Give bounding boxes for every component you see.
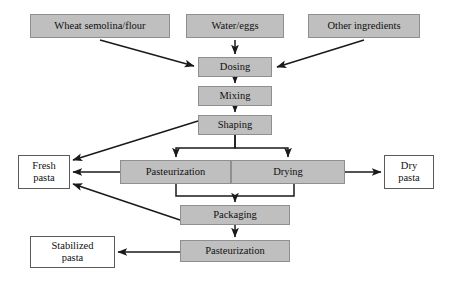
node-pasteurization-stabilized: Pasteurization (180, 240, 290, 262)
node-mixing: Mixing (198, 86, 272, 106)
edge-merge-to-packaging (176, 184, 294, 196)
node-stabilized-pasta: Stabilized pasta (30, 236, 115, 268)
node-label: Pasteurization (146, 166, 205, 178)
flowchart-diagram: Wheat semolina/flour Water/eggs Other in… (0, 0, 450, 281)
node-label: Wheat semolina/flour (54, 20, 145, 32)
node-wheat-semolina-flour: Wheat semolina/flour (30, 14, 170, 38)
edge-shaping-to-drying (235, 135, 288, 157)
node-label: Fresh pasta (32, 160, 55, 184)
node-label: Dosing (220, 61, 250, 73)
node-label: Drying (273, 166, 303, 178)
node-label: Water/eggs (212, 20, 259, 32)
node-pasteurization-fresh: Pasteurization (120, 160, 231, 184)
node-label: Packaging (213, 209, 257, 221)
node-label: Dry pasta (398, 160, 420, 184)
node-label: Mixing (220, 90, 251, 102)
node-label: Shaping (218, 119, 252, 131)
node-label: Other ingredients (327, 20, 400, 32)
edge-shaping-to-pasteurization (176, 135, 235, 157)
node-dry-pasta: Dry pasta (384, 155, 434, 189)
node-label: Stabilized pasta (52, 240, 94, 264)
node-water-eggs: Water/eggs (186, 14, 284, 38)
edge-shaping-to-fresh (73, 121, 198, 160)
edge-other-to-dosing (277, 40, 364, 67)
node-fresh-pasta: Fresh pasta (18, 155, 70, 189)
node-dosing: Dosing (198, 57, 272, 77)
node-packaging: Packaging (180, 205, 290, 225)
edge-wheat-to-dosing (100, 40, 194, 66)
node-shaping: Shaping (198, 115, 272, 135)
node-drying: Drying (231, 160, 345, 184)
node-other-ingredients: Other ingredients (308, 14, 420, 38)
edge-packaging-to-fresh (73, 184, 180, 220)
node-label: Pasteurization (205, 245, 264, 257)
